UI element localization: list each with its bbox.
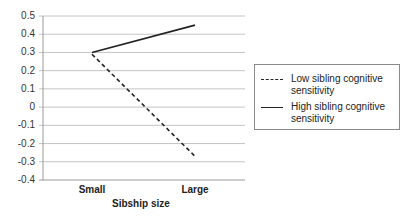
y-tick-label: -0.3 xyxy=(9,156,35,167)
series-lines xyxy=(92,25,195,156)
x-tick-small: Small xyxy=(62,184,122,195)
legend-label-low-line1: Low sibling cognitive xyxy=(291,73,399,85)
solid-line-swatch-icon xyxy=(261,107,283,108)
y-tick-label: 0.5 xyxy=(9,10,35,21)
y-tick-label: 0.4 xyxy=(9,28,35,39)
series-line-low xyxy=(92,54,195,156)
y-tick-label: 0 xyxy=(9,101,35,112)
x-axis-label: Sibship size xyxy=(112,198,170,209)
y-tick-label: 0.1 xyxy=(9,83,35,94)
dashed-line-swatch-icon xyxy=(261,79,283,80)
series-line-high xyxy=(92,25,195,52)
y-tick-label: -0.2 xyxy=(9,138,35,149)
legend-label-high-line2: sensitivity xyxy=(291,113,399,125)
legend-label-high-line1: High sibling cognitive xyxy=(291,101,399,113)
legend-label-low-line2: sensitivity xyxy=(291,85,399,97)
legend: Low sibling cognitive sensitivity High s… xyxy=(254,64,400,130)
y-tick-label: 0.3 xyxy=(9,46,35,57)
x-tick-large: Large xyxy=(165,184,225,195)
legend-label-low: Low sibling cognitive sensitivity xyxy=(291,73,399,97)
y-tick-label: -0.1 xyxy=(9,119,35,130)
y-tick-label: 0.2 xyxy=(9,65,35,76)
gridlines xyxy=(39,16,245,180)
legend-label-high: High sibling cognitive sensitivity xyxy=(291,101,399,125)
y-tick-label: -0.4 xyxy=(9,174,35,185)
